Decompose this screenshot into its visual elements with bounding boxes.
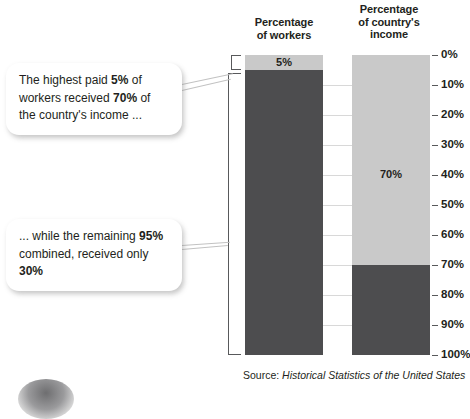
axis-label-40: 40%: [441, 169, 464, 181]
axis-label-80: 80%: [441, 289, 464, 301]
gridline-50: [323, 205, 352, 206]
axis-tick-80: [432, 295, 438, 296]
axis-tick-20: [432, 115, 438, 116]
axis-tick-60: [432, 235, 438, 236]
source-title: Historical Statistics of the United Stat…: [282, 369, 465, 381]
callout-top-bold-2: 70%: [113, 91, 137, 105]
axis-tick-50: [432, 205, 438, 206]
axis-tick-30: [432, 145, 438, 146]
callout-top-text-1: The highest paid: [19, 73, 111, 87]
callout-bottom-text-2: combined, received only: [19, 247, 148, 261]
callout-bottom-bold-2: 30%: [19, 264, 43, 278]
axis-label-0: 0%: [441, 49, 458, 61]
bar-segment: [352, 265, 430, 355]
bar-segment: [245, 70, 323, 355]
gridline-90: [323, 325, 352, 326]
callout-bottom-bold-1: 95%: [139, 229, 163, 243]
axis-label-10: 10%: [441, 79, 464, 91]
axis-tick-0: [432, 55, 438, 56]
axis-tick-10: [432, 85, 438, 86]
axis-tick-70: [432, 265, 438, 266]
callout-top: The highest paid 5% of workers received …: [6, 63, 182, 135]
gridline-70: [323, 265, 352, 266]
gridline-40: [323, 175, 352, 176]
callout-bottom: ... while the remaining 95% combined, re…: [6, 219, 182, 291]
bar-segment: [352, 55, 430, 265]
axis-tick-40: [432, 175, 438, 176]
axis-label-50: 50%: [441, 199, 464, 211]
source-note: Source: Historical Statistics of the Uni…: [243, 369, 465, 381]
source-prefix: Source:: [243, 369, 282, 381]
gridline-60: [323, 235, 352, 236]
gridline-20: [323, 115, 352, 116]
callout-top-bold-1: 5%: [111, 73, 128, 87]
axis-label-70: 70%: [441, 259, 464, 271]
gridline-10: [323, 85, 352, 86]
gridline-30: [323, 145, 352, 146]
callout-bottom-text-1: ... while the remaining: [19, 229, 139, 243]
bar-value-label: 5%: [245, 56, 323, 68]
bar-workers: 5%: [245, 55, 323, 355]
bracket-top-5-percent: [231, 55, 241, 70]
axis-tick-100: [432, 355, 438, 356]
axis-label-100: 100%: [441, 349, 470, 361]
bar-value-label: 70%: [352, 168, 430, 180]
axis-tick-90: [432, 325, 438, 326]
axis-label-60: 60%: [441, 229, 464, 241]
axis-label-20: 20%: [441, 109, 464, 121]
bar-income: 70%: [352, 55, 430, 355]
bracket-bottom-95-percent: [228, 73, 241, 355]
axis-label-90: 90%: [441, 319, 464, 331]
axis-label-30: 30%: [441, 139, 464, 151]
gridline-80: [323, 295, 352, 296]
decorative-blob: [18, 379, 74, 419]
